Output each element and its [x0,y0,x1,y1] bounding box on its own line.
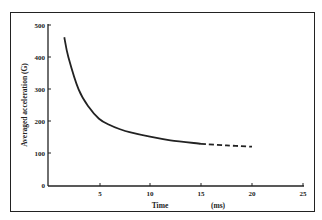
x-tick-label: 20 [249,190,257,198]
y-tick-label: 200 [35,118,46,126]
y-tick-label: 0 [42,182,46,190]
x-axis-unit: (ms) [211,201,226,210]
curve-solid [64,37,201,144]
x-tick-label: 15 [198,190,206,198]
y-tick-label: 500 [35,22,46,30]
x-tick-label: 5 [98,190,102,198]
x-axis-title: Time [152,201,169,210]
y-tick-label: 400 [35,54,46,62]
y-tick-label: 300 [35,86,46,94]
y-tick-label: 100 [35,150,46,158]
x-tick-label: 10 [147,190,155,198]
y-axis-title: Averaged acceleration (G) [20,63,29,147]
chart-plot: 500 400 300 200 100 0 5 10 15 20 25 Time… [0,0,322,220]
x-tick-label: 25 [300,190,308,198]
curve-dashed [201,144,252,147]
